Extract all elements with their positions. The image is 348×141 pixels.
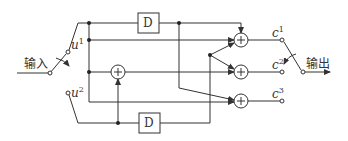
label-u2: u2 xyxy=(71,86,84,99)
delay-label-top: D xyxy=(143,17,153,29)
input-label: 输入 xyxy=(24,58,48,70)
label-c1: c1 xyxy=(272,26,284,39)
output-label: 输出 xyxy=(306,58,330,70)
label-u1: u1 xyxy=(71,38,84,51)
input-pivot xyxy=(48,71,52,75)
input-switch-arc xyxy=(56,58,69,66)
label-c2: c2 xyxy=(272,58,284,71)
input-switch-blade xyxy=(50,54,66,73)
delay-label-bottom: D xyxy=(144,117,154,129)
terminal-u1 xyxy=(66,50,70,54)
circuit-diagram xyxy=(0,0,348,141)
output-switch-blade xyxy=(284,42,301,70)
label-c3: c3 xyxy=(272,87,284,100)
terminal-u2 xyxy=(66,91,70,95)
output-pivot xyxy=(301,70,305,74)
